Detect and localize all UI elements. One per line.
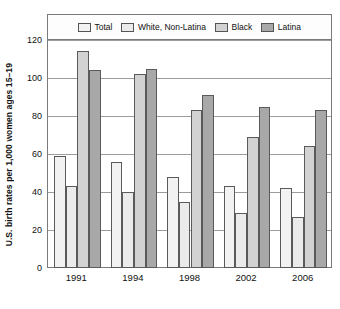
bar xyxy=(247,137,259,268)
bar-chart-figure: U.S. birth rates per 1,000 women ages 15… xyxy=(0,0,340,309)
chart-legend: TotalWhite, Non-LatinaBlackLatina xyxy=(48,15,331,40)
x-axis-tick-label: 2006 xyxy=(292,272,313,283)
legend-item-white-non-latina[interactable]: White, Non-Latina xyxy=(121,23,206,32)
bar xyxy=(54,156,66,268)
legend-swatch-icon xyxy=(215,23,228,32)
legend-item-black[interactable]: Black xyxy=(215,23,252,32)
y-axis-title: U.S. birth rates per 1,000 women ages 15… xyxy=(0,0,18,309)
bar xyxy=(122,192,134,268)
x-axis-tick-label: 1991 xyxy=(66,272,87,283)
bar xyxy=(134,74,146,268)
legend-label: Latina xyxy=(278,23,301,32)
y-axis-tick-label: 120 xyxy=(27,35,42,45)
legend-swatch-icon xyxy=(261,23,274,32)
bar xyxy=(179,202,191,269)
y-axis-tick-label: 20 xyxy=(32,225,42,235)
legend-item-total[interactable]: Total xyxy=(78,23,112,32)
y-axis-tick-label: 60 xyxy=(32,149,42,159)
bar xyxy=(280,188,292,268)
bar xyxy=(111,162,123,268)
bar xyxy=(202,95,214,268)
y-axis-tick-label: 80 xyxy=(32,111,42,121)
y-axis-tick-label: 100 xyxy=(27,73,42,83)
bar xyxy=(167,177,179,268)
bar xyxy=(304,146,316,268)
bar xyxy=(292,217,304,268)
legend-label: White, Non-Latina xyxy=(138,23,206,32)
x-axis-tick-label: 2002 xyxy=(236,272,257,283)
bar xyxy=(224,186,236,268)
x-axis-tick-label: 1998 xyxy=(179,272,200,283)
x-axis-tick-label: 1994 xyxy=(122,272,143,283)
y-axis-tick-label: 0 xyxy=(37,263,42,273)
bar xyxy=(77,51,89,268)
bar xyxy=(235,213,247,268)
legend-label: Black xyxy=(232,23,253,32)
bar xyxy=(146,69,158,269)
legend-item-latina[interactable]: Latina xyxy=(261,23,301,32)
bar xyxy=(191,110,203,268)
x-axis-tick-labels: 19911994199820022006 xyxy=(47,272,332,288)
y-axis-tick-labels: 020406080100120 xyxy=(18,40,46,268)
legend-swatch-icon xyxy=(78,23,91,32)
y-axis-tick-label: 40 xyxy=(32,187,42,197)
bar xyxy=(66,186,78,268)
legend-label: Total xyxy=(95,23,113,32)
bar xyxy=(315,110,327,268)
bar xyxy=(259,107,271,269)
bar-series-group xyxy=(48,15,331,267)
plot-area: TotalWhite, Non-LatinaBlackLatina xyxy=(47,14,332,268)
legend-swatch-icon xyxy=(121,23,134,32)
bar xyxy=(89,70,101,268)
y-axis-title-text: U.S. birth rates per 1,000 women ages 15… xyxy=(4,63,14,246)
